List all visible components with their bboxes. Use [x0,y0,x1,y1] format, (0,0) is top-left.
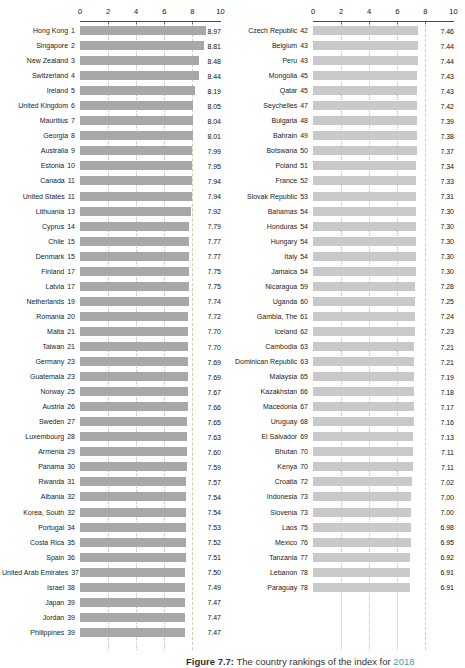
score-bar [80,267,189,276]
rank-label: 19 [67,298,75,305]
bar-plot-area: 7.30 [313,252,454,261]
bar-row: Israel38 7.49 [2,580,222,595]
bar-row: Switzerland4 8.44 [2,68,222,83]
bar-row: Uganda60 7.25 [235,294,455,309]
bar-row: Bahamas54 7.30 [235,204,455,219]
value-label: 7.30 [440,253,454,260]
rank-label: 6 [71,102,75,109]
bar-plot-area: 7.92 [80,207,221,216]
row-label: Chile15 [2,238,80,245]
figure-caption: Figure 7.7: The country rankings of the … [186,656,415,667]
bar-plot-area: 7.57 [80,477,221,486]
value-label: 7.52 [207,539,221,546]
bar-row: Hungary54 7.30 [235,234,455,249]
value-label: 7.17 [440,403,454,410]
value-label: 7.30 [440,223,454,230]
country-label: Malaysia [270,373,298,380]
bar-plot-area: 7.70 [80,327,221,336]
country-label: Costa Rica [30,539,64,546]
row-label: Dominican Republic63 [235,358,313,365]
bar-row: Taiwan21 7.70 [2,339,222,354]
country-label: Bhutan [275,448,297,455]
bar-row: Denmark15 7.77 [2,249,222,264]
value-label: 6.92 [440,554,454,561]
row-label: Slovenia73 [235,509,313,516]
row-label: Hungary54 [235,238,313,245]
bar-plot-area: 7.94 [80,176,221,185]
bar-row: Estonia10 7.95 [2,158,222,173]
rank-label: 54 [300,223,308,230]
rank-label: 76 [300,539,308,546]
rank-label: 32 [67,509,75,516]
bar-plot-area: 7.99 [80,146,221,155]
score-bar [313,297,415,306]
bar-plot-area: 7.44 [313,56,454,65]
value-label: 7.94 [207,193,221,200]
score-bar [80,477,186,486]
rank-label: 61 [300,313,308,320]
row-label: United Kingdom6 [2,102,80,109]
rank-label: 2 [71,42,75,49]
bar-plot-area: 7.30 [313,207,454,216]
rank-label: 78 [300,569,308,576]
rank-label: 53 [300,193,308,200]
value-label: 7.47 [207,614,221,621]
bar-plot-area: 7.60 [80,447,221,456]
bar-row: Sweden27 7.65 [2,414,222,429]
bar-row: Belgium43 7.44 [235,38,455,53]
bar-row: Korea, South32 7.54 [2,505,222,520]
value-label: 7.99 [207,147,221,154]
value-label: 7.77 [207,238,221,245]
value-label: 7.31 [440,193,454,200]
rank-label: 54 [300,253,308,260]
rank-label: 13 [67,208,75,215]
row-label: Guatemala23 [2,373,80,380]
bar-row: Rwanda31 7.57 [2,474,222,489]
row-label: Philippines39 [2,629,80,636]
country-label: Romania [36,313,64,320]
rank-label: 69 [300,433,308,440]
score-bar [313,86,417,95]
axis-number: 8 [190,7,194,16]
bar-row: Australia9 7.99 [2,143,222,158]
country-label: United Kingdom [18,102,68,109]
row-label: Seychelles47 [235,102,313,109]
bar-row: Slovak Republic53 7.31 [235,189,455,204]
row-label: Lithuania13 [2,208,80,215]
bar-row: Portugal34 7.53 [2,520,222,535]
rank-label: 48 [300,117,308,124]
axis-line [80,21,221,22]
row-label: Gambia, The61 [235,313,313,320]
value-label: 7.00 [440,493,454,500]
rank-label: 36 [67,554,75,561]
rank-label: 77 [300,554,308,561]
rank-label: 63 [300,358,308,365]
rank-label: 9 [71,147,75,154]
value-label: 7.69 [207,373,221,380]
bar-row: Hong Kong1 8.97 [2,23,222,38]
bar-row: Laos75 6.98 [235,520,455,535]
rank-label: 26 [67,403,75,410]
score-bar [80,312,188,321]
score-bar [80,101,193,110]
rank-label: 47 [300,102,308,109]
country-label: Latvia [46,283,65,290]
bar-plot-area: 7.33 [313,176,454,185]
axis-number: 4 [134,7,138,16]
bar-plot-area: 7.77 [80,237,221,246]
chart-panel-left: 0246810 Hong Kong1 8.97 Singapore2 8.81 … [2,4,222,640]
value-label: 7.66 [207,403,221,410]
axis-number: 0 [311,7,315,16]
rank-label: 23 [67,358,75,365]
country-label: Austria [42,403,64,410]
panel-body: Czech Republic42 7.46 Belgium43 7.44 Per… [235,23,455,595]
bar-plot-area: 7.16 [313,417,454,426]
bar-row: Honduras54 7.30 [235,219,455,234]
bar-row: Peru43 7.44 [235,53,455,68]
bar-row: Lebanon78 6.91 [235,565,455,580]
bar-plot-area: 7.13 [313,432,454,441]
row-label: Spain36 [2,554,80,561]
score-bar [80,146,192,155]
bar-plot-area: 7.47 [80,628,221,637]
country-label: Portugal [38,524,64,531]
